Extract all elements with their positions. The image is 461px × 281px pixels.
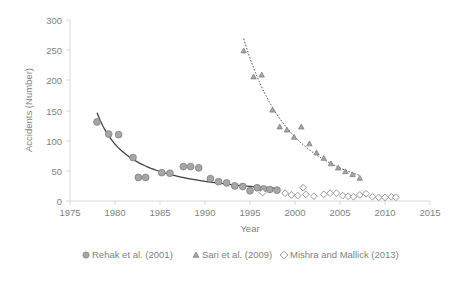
x-tick-label: 2010 xyxy=(374,207,395,218)
legend-label: Sari et al. (2009) xyxy=(202,249,272,260)
data-point xyxy=(195,164,202,171)
x-tick-label: 2000 xyxy=(284,207,305,218)
x-tick-labels: 1975 1980 1985 1990 1995 2000 2005 2010 … xyxy=(59,207,440,218)
data-point xyxy=(266,186,273,193)
y-tick-label: 200 xyxy=(46,75,62,86)
legend-label: Mishra and Mallick (2013) xyxy=(290,249,399,260)
data-point xyxy=(223,180,230,187)
data-point xyxy=(115,131,122,138)
data-point xyxy=(187,163,194,170)
x-tick-label: 1990 xyxy=(194,207,215,218)
data-point xyxy=(158,169,165,176)
data-point xyxy=(135,174,142,181)
data-point xyxy=(142,174,149,181)
data-point xyxy=(215,178,222,185)
y-axis-title: Accidents (Number) xyxy=(23,68,34,152)
data-point xyxy=(254,184,261,191)
accidents-vs-year-chart: 300 250 200 150 100 50 0 1975 1980 1985 … xyxy=(0,0,461,281)
y-tick-label: 100 xyxy=(46,136,62,147)
chart-legend: Rehak et al. (2001)Sari et al. (2009)Mis… xyxy=(83,249,399,260)
x-tick-label: 2015 xyxy=(419,207,440,218)
data-point xyxy=(94,119,101,126)
data-point xyxy=(274,187,281,194)
y-tick-marks xyxy=(66,20,70,201)
data-point xyxy=(130,154,137,161)
legend-label: Rehak et al. (2001) xyxy=(92,249,173,260)
y-tick-label: 300 xyxy=(46,15,62,26)
x-tick-label: 1975 xyxy=(59,207,80,218)
data-point xyxy=(247,187,254,194)
chart-canvas: 300 250 200 150 100 50 0 1975 1980 1985 … xyxy=(0,0,461,281)
data-point xyxy=(105,131,112,138)
diamond-marker xyxy=(280,251,288,259)
x-axis-title: Year xyxy=(240,223,259,234)
data-point xyxy=(167,170,174,177)
data-point xyxy=(207,175,214,182)
triangle-marker xyxy=(193,252,199,257)
x-tick-label: 1985 xyxy=(149,207,170,218)
x-tick-label: 1980 xyxy=(104,207,125,218)
data-point xyxy=(231,183,238,190)
x-tick-label: 2005 xyxy=(329,207,350,218)
y-tick-label: 0 xyxy=(57,196,62,207)
circle-marker xyxy=(83,252,89,258)
data-point xyxy=(239,183,246,190)
data-point xyxy=(180,163,187,170)
y-tick-label: 250 xyxy=(46,45,62,56)
y-tick-label: 150 xyxy=(46,106,62,117)
y-tick-label: 50 xyxy=(51,166,62,177)
plot-area xyxy=(70,20,430,201)
x-tick-marks xyxy=(70,201,430,205)
x-tick-label: 1995 xyxy=(239,207,260,218)
y-tick-labels: 300 250 200 150 100 50 0 xyxy=(46,15,62,207)
